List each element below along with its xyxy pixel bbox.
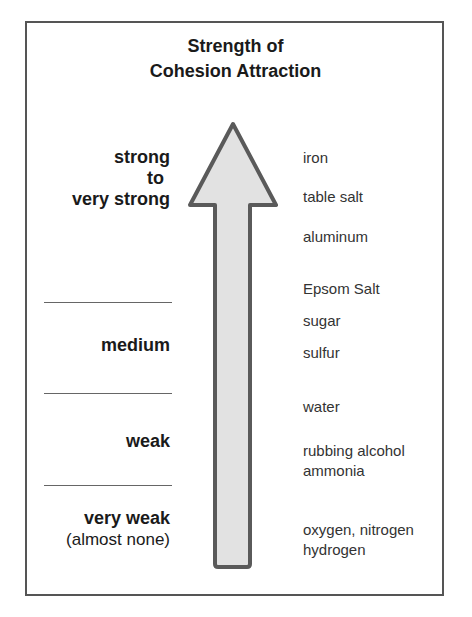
level-weak: weak xyxy=(126,431,170,452)
substance-oxygen-nitrogen: oxygen, nitrogen xyxy=(303,520,414,539)
level-strong: strong to very strong xyxy=(72,147,170,210)
substance-sugar: sugar xyxy=(303,311,341,330)
substance-hydrogen: hydrogen xyxy=(303,540,366,559)
level-very-weak-sub: (almost none) xyxy=(66,529,170,550)
substance-iron: iron xyxy=(303,148,328,167)
level-medium-label: medium xyxy=(101,335,170,356)
level-weak-label: weak xyxy=(126,431,170,452)
divider-medium-weak xyxy=(44,393,172,394)
substance-aluminum: aluminum xyxy=(303,227,368,246)
substance-water: water xyxy=(303,397,340,416)
substance-epsom-salt: Epsom Salt xyxy=(303,279,380,298)
divider-weak-veryweak xyxy=(44,485,172,486)
level-medium: medium xyxy=(101,335,170,356)
substance-rubbing-alcohol: rubbing alcohol xyxy=(303,441,405,460)
level-very-weak-label: very weak xyxy=(66,508,170,529)
level-strong-line-1: strong xyxy=(72,147,170,168)
substance-table-salt: table salt xyxy=(303,187,363,206)
level-strong-line-2: to xyxy=(72,168,164,189)
level-very-weak: very weak (almost none) xyxy=(66,508,170,550)
substance-ammonia: ammonia xyxy=(303,461,365,480)
level-strong-line-3: very strong xyxy=(72,189,170,210)
substance-sulfur: sulfur xyxy=(303,343,340,362)
divider-strong-medium xyxy=(44,302,172,303)
